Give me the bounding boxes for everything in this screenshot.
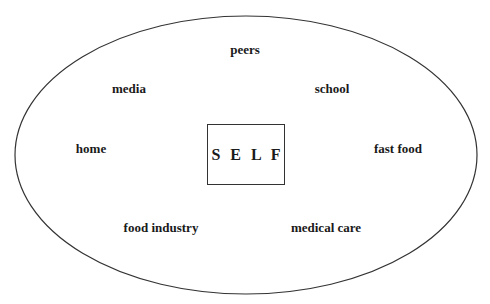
label-medical-care: medical care [291, 220, 361, 236]
label-school: school [315, 81, 350, 97]
label-fast-food: fast food [374, 141, 422, 157]
label-media: media [112, 81, 146, 97]
label-home: home [76, 141, 106, 157]
self-label: S E L F [208, 146, 283, 164]
label-peers: peers [230, 42, 260, 58]
self-box: S E L F [207, 124, 285, 185]
label-food-industry: food industry [124, 220, 199, 236]
